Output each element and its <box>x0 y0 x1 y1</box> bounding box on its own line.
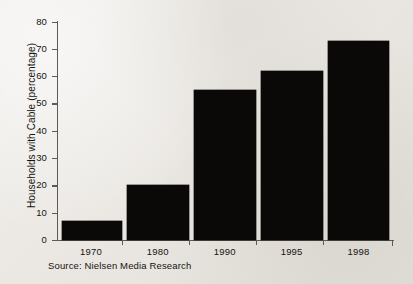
y-axis-tick-label: 60 <box>23 71 47 81</box>
y-axis-tick-label: 10 <box>23 208 47 218</box>
y-axis-tick-mark <box>52 76 58 77</box>
x-axis-tick-label: 1998 <box>325 246 392 257</box>
x-axis-tick-mark <box>189 240 190 245</box>
y-axis-tick-mark <box>52 22 58 23</box>
x-axis-tick-mark <box>122 240 123 245</box>
y-axis-tick-label: 40 <box>23 126 47 136</box>
x-axis-tick-mark <box>256 240 257 245</box>
y-axis-tick-mark <box>52 213 58 214</box>
bar <box>328 41 390 240</box>
y-axis-tick-label: 0 <box>23 235 47 245</box>
y-axis-tick-mark <box>52 49 58 50</box>
y-axis-tick-label: 70 <box>23 44 47 54</box>
y-axis-tick-mark <box>52 158 58 159</box>
x-axis-end-tick <box>392 240 393 246</box>
y-axis-tick-mark <box>52 240 58 241</box>
y-axis-tick-mark <box>52 185 58 186</box>
x-axis-tick-label: 1970 <box>58 246 125 257</box>
x-axis-tick-label: 1990 <box>191 246 258 257</box>
y-axis-tick-label: 30 <box>23 153 47 163</box>
y-axis-tick-mark <box>52 103 58 104</box>
y-axis-tick-mark <box>52 131 58 132</box>
bar-chart: Households with Cable (percentage) 80706… <box>0 0 413 284</box>
x-axis-tick-label: 1995 <box>258 246 325 257</box>
bar <box>261 71 323 240</box>
bar <box>127 185 189 240</box>
bar <box>194 90 256 240</box>
x-axis-tick-mark <box>323 240 324 245</box>
source-note: Source: Nielsen Media Research <box>48 260 191 271</box>
y-axis-tick-label: 80 <box>23 17 47 27</box>
y-axis-tick-label: 50 <box>23 98 47 108</box>
x-axis-tick-label: 1980 <box>124 246 191 257</box>
x-axis-line <box>57 240 394 241</box>
y-axis-tick-label: 20 <box>23 180 47 190</box>
bar <box>62 221 122 240</box>
